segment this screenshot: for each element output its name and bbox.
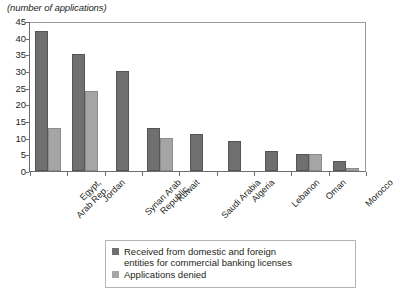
x-axis-tick-mark xyxy=(142,172,143,176)
legend-label-denied-line1: Applications denied xyxy=(124,269,206,280)
bar-denied xyxy=(160,138,173,171)
bar-group xyxy=(30,21,67,171)
bar-received xyxy=(116,71,129,171)
y-axis-tick-mark xyxy=(26,55,29,56)
x-axis-tick-mark xyxy=(254,172,255,176)
bar-denied xyxy=(309,154,322,171)
y-axis-tick-mark xyxy=(26,72,29,73)
y-axis-tick-mark xyxy=(26,122,29,123)
x-axis-label: Morocco xyxy=(364,178,395,209)
y-axis-tick-mark xyxy=(26,89,29,90)
x-axis-tick-mark xyxy=(217,172,218,176)
bar-denied xyxy=(48,128,61,171)
bar-received xyxy=(147,128,160,171)
bar-group xyxy=(291,21,328,171)
x-axis-tick-mark xyxy=(329,172,330,176)
y-axis-tick-mark xyxy=(26,155,29,156)
x-axis-tick-mark xyxy=(291,172,292,176)
y-axis-tick-mark xyxy=(26,139,29,140)
bar-chart-figure: (number of applications) 051015202530354… xyxy=(0,0,400,297)
y-axis-tick-mark xyxy=(26,105,29,106)
legend-swatch-icon-denied xyxy=(112,271,119,278)
legend-label-denied: Applications denied xyxy=(124,269,206,280)
y-axis-tick-mark xyxy=(26,172,29,173)
y-axis-tick-mark xyxy=(26,22,29,23)
x-axis-tick-mark xyxy=(366,172,367,176)
legend-label-received-line2: entities for commercial banking licenses xyxy=(124,257,292,268)
x-axis-label-line1: Lebanon xyxy=(290,178,322,210)
x-axis-tick-mark xyxy=(179,172,180,176)
bar-received xyxy=(190,134,203,171)
y-axis-tick-mark xyxy=(26,39,29,40)
legend-swatch-icon-received xyxy=(112,248,119,255)
bar-group xyxy=(67,21,104,171)
bar-group xyxy=(329,21,366,171)
bar-received xyxy=(228,141,241,171)
legend-item-received: Received from domestic and foreign entit… xyxy=(112,246,349,268)
chart-legend: Received from domestic and foreign entit… xyxy=(105,240,356,288)
x-axis-tick-mark xyxy=(105,172,106,176)
bar-group xyxy=(105,21,142,171)
x-axis-label: Jordan xyxy=(101,178,127,204)
plot-frame xyxy=(30,22,366,172)
bar-group xyxy=(254,21,291,171)
chart-subtitle: (number of applications) xyxy=(7,2,107,13)
x-axis-tick-mark xyxy=(67,172,68,176)
x-axis-tick-mark xyxy=(30,172,31,176)
bar-denied xyxy=(346,168,359,171)
bar-received xyxy=(35,31,48,171)
bar-denied xyxy=(85,91,98,171)
legend-label-received-line1: Received from domestic and foreign xyxy=(124,246,276,257)
bar-group xyxy=(179,21,216,171)
x-axis-label-line1: Jordan xyxy=(101,178,127,204)
bar-group xyxy=(217,21,254,171)
plot-area xyxy=(30,23,365,171)
x-axis-label-line1: Morocco xyxy=(364,178,395,209)
x-axis-label: Oman xyxy=(324,178,348,202)
bar-group xyxy=(142,21,179,171)
legend-item-denied: Applications denied xyxy=(112,269,349,280)
bar-received xyxy=(72,54,85,171)
x-axis-label-line1: Oman xyxy=(324,178,348,202)
bar-received xyxy=(296,154,309,171)
bar-received xyxy=(265,151,278,171)
legend-label-received: Received from domestic and foreign entit… xyxy=(124,246,292,268)
x-axis-label: Lebanon xyxy=(290,178,322,210)
bar-received xyxy=(333,161,346,171)
